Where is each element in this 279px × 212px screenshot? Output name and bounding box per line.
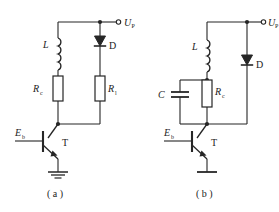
inductor-label-a: L — [42, 39, 49, 50]
panel-b: U P L C R c — [158, 17, 279, 201]
resistor-rl-subscript-a: l — [115, 90, 117, 96]
panel-a: U P L R c D R l — [14, 17, 136, 201]
resistor-rc-subscript-a: c — [40, 90, 43, 96]
supply-subscript-b: P — [275, 23, 279, 29]
circuit-figure: U P L R c D R l — [0, 0, 279, 212]
bias-subscript-a: b — [22, 134, 25, 140]
inductor-a — [58, 38, 61, 70]
resistor-rc-label-a: R — [32, 83, 39, 94]
inductor-b — [207, 40, 210, 72]
circuit-diagram-canvas: U P L R c D R l — [0, 0, 279, 212]
diode-label-b: D — [256, 59, 263, 70]
resistor-rc-body-a — [53, 76, 63, 101]
capacitor-label-b: C — [158, 89, 165, 100]
diode-b — [241, 55, 253, 65]
caption-b: ( b ) — [196, 188, 213, 200]
transistor-label-a: T — [62, 137, 68, 148]
bias-label-b: E — [163, 127, 170, 138]
diode-label-a: D — [109, 40, 116, 51]
bias-label-a: E — [14, 127, 21, 138]
diode-a — [94, 36, 106, 46]
resistor-rl-label-a: R — [107, 83, 114, 94]
resistor-rl-body-a — [95, 76, 105, 101]
resistor-rc-label-b: R — [214, 86, 221, 97]
transistor-label-b: T — [211, 137, 217, 148]
supply-terminal-a — [116, 20, 120, 24]
capacitor-b — [171, 92, 189, 97]
caption-a: ( a ) — [47, 188, 63, 200]
inductor-label-b: L — [191, 41, 198, 52]
supply-subscript-a: P — [132, 23, 136, 29]
transistor-a — [43, 124, 58, 172]
resistor-rc-subscript-b: c — [222, 93, 225, 99]
ground-symbol-a — [48, 172, 68, 178]
bias-subscript-b: b — [171, 134, 174, 140]
resistor-rc-body-b — [202, 80, 212, 107]
supply-terminal-b — [261, 20, 265, 24]
transistor-b — [192, 124, 207, 172]
